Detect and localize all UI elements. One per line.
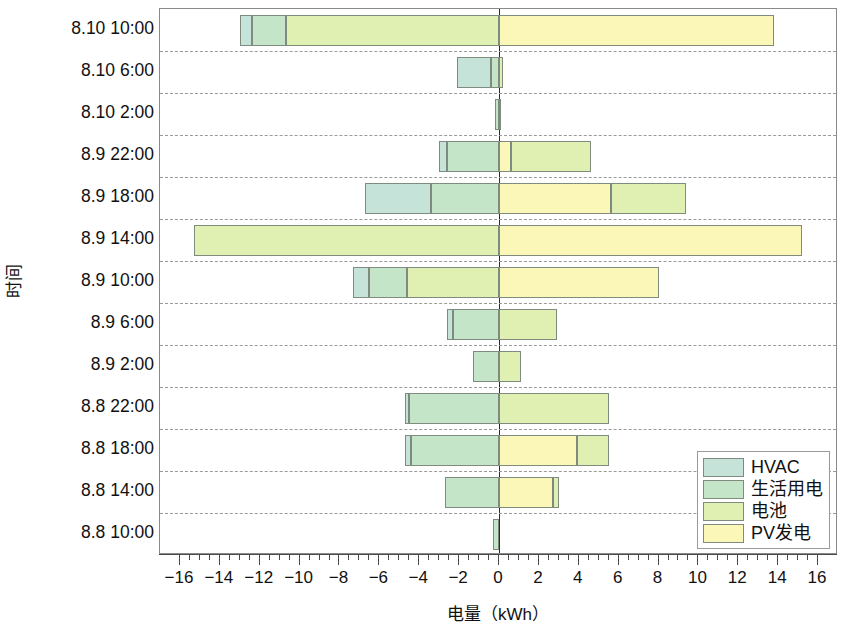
x-major-tick (418, 554, 419, 565)
x-major-tick (299, 554, 300, 565)
legend-label: HVAC (751, 458, 800, 476)
bar-segment (411, 435, 499, 466)
bar-row (160, 15, 836, 46)
legend-item[interactable]: 生活用电 (703, 478, 823, 500)
x-major-tick (817, 554, 818, 565)
x-minor-tick (398, 554, 399, 560)
x-minor-tick (279, 554, 280, 560)
legend-label: PV发电 (751, 524, 811, 542)
bar-segment (553, 477, 559, 508)
x-minor-tick (528, 554, 529, 560)
x-tick-label: 12 (728, 568, 747, 588)
x-minor-tick (648, 554, 649, 560)
bar-segment (365, 183, 431, 214)
gridline (160, 345, 836, 346)
x-tick-label: −12 (244, 568, 273, 588)
chart-root: 时间 8.10 10:008.10 6:008.10 2:008.9 22:00… (0, 0, 845, 635)
bar-row (160, 267, 836, 298)
bar-segment (286, 15, 499, 46)
bar-segment (240, 15, 252, 46)
x-minor-tick (747, 554, 748, 560)
x-minor-tick (488, 554, 489, 560)
x-minor-tick (209, 554, 210, 560)
bar-segment (252, 15, 286, 46)
y-tick-label: 8.9 2:00 (36, 356, 154, 374)
x-minor-tick (358, 554, 359, 560)
x-minor-tick (638, 554, 639, 560)
x-minor-tick (468, 554, 469, 560)
y-tick-label: 8.9 18:00 (36, 188, 154, 206)
x-major-tick (658, 554, 659, 565)
bar-segment (499, 57, 503, 88)
bar-segment (445, 477, 499, 508)
bar-segment (499, 351, 521, 382)
x-axis-title: 电量（kWh） (159, 600, 837, 625)
bar-segment (499, 141, 511, 172)
y-tick-label: 8.8 18:00 (36, 440, 154, 458)
bar-segment (473, 351, 499, 382)
x-minor-tick (309, 554, 310, 560)
legend-swatch (703, 524, 744, 543)
y-tick-label: 8.9 10:00 (36, 272, 154, 290)
x-minor-tick (707, 554, 708, 560)
bar-segment (453, 309, 499, 340)
bar-segment (493, 519, 499, 550)
y-tick-label: 8.9 6:00 (36, 314, 154, 332)
x-minor-tick (717, 554, 718, 560)
legend-item[interactable]: HVAC (703, 456, 823, 478)
bar-row (160, 309, 836, 340)
gridline (160, 51, 836, 52)
gridline (160, 93, 836, 94)
x-major-tick (697, 554, 698, 565)
bar-segment (431, 183, 499, 214)
x-minor-tick (448, 554, 449, 560)
x-minor-tick (408, 554, 409, 560)
x-axis-tick-labels: −16−14−12−10−8−6−4−20246810121416 (159, 568, 837, 592)
x-tick-label: 14 (768, 568, 787, 588)
legend-item[interactable]: 电池 (703, 500, 823, 522)
x-minor-tick (508, 554, 509, 560)
bar-segment (407, 267, 499, 298)
x-minor-tick (687, 554, 688, 560)
y-axis-tick-labels: 8.10 10:008.10 6:008.10 2:008.9 22:008.9… (32, 8, 154, 554)
bar-segment (457, 57, 491, 88)
x-minor-tick (289, 554, 290, 560)
legend-label: 生活用电 (751, 480, 823, 498)
y-tick-label: 8.9 22:00 (36, 146, 154, 164)
bar-segment (409, 393, 499, 424)
x-tick-label: 0 (493, 568, 502, 588)
x-minor-tick (548, 554, 549, 560)
legend-swatch (703, 502, 744, 521)
x-major-tick (498, 554, 499, 565)
bar-row (160, 99, 836, 130)
legend-item[interactable]: PV发电 (703, 522, 823, 544)
x-major-tick (737, 554, 738, 565)
legend-swatch (703, 458, 744, 477)
bar-row (160, 393, 836, 424)
y-tick-label: 8.9 14:00 (36, 230, 154, 248)
bar-segment (369, 267, 407, 298)
x-minor-tick (249, 554, 250, 560)
y-tick-label: 8.8 22:00 (36, 398, 154, 416)
x-minor-tick (568, 554, 569, 560)
x-major-tick (259, 554, 260, 565)
x-major-tick (219, 554, 220, 565)
legend-label: 电池 (751, 502, 787, 520)
bar-row (160, 183, 836, 214)
x-major-tick (378, 554, 379, 565)
x-minor-tick (588, 554, 589, 560)
x-minor-tick (787, 554, 788, 560)
gridline (160, 387, 836, 388)
x-tick-label: −8 (329, 568, 348, 588)
bar-segment (439, 141, 447, 172)
legend: HVAC生活用电电池PV发电 (697, 451, 830, 549)
x-major-tick (578, 554, 579, 565)
bar-segment (499, 477, 553, 508)
x-axis-ruler (159, 554, 837, 568)
x-tick-label: −16 (165, 568, 194, 588)
x-minor-tick (478, 554, 479, 560)
y-tick-label: 8.10 2:00 (36, 104, 154, 122)
x-tick-label: −2 (448, 568, 467, 588)
gridline (160, 303, 836, 304)
x-minor-tick (668, 554, 669, 560)
